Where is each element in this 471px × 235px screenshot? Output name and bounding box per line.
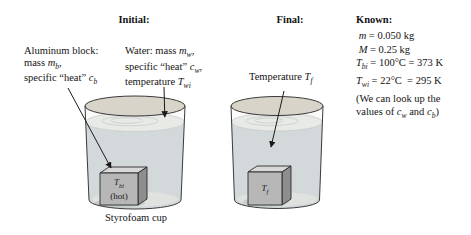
block-temp-initial-note: (hot)	[100, 191, 138, 202]
known-line: m = 0.050 kg	[356, 29, 443, 43]
aluminum-block-label: Aluminum block: mass mb, specific “heat”…	[24, 45, 98, 88]
block-side-face	[138, 167, 147, 205]
calorimetry-figure: Initial: Final: Known: m = 0.050 kg M = …	[0, 0, 471, 235]
water-label-line: Water: mass mw,	[125, 45, 202, 61]
block-temp-final-label: Tf	[248, 183, 282, 197]
known-line: Twi = 22°C = 295 K	[356, 74, 443, 92]
block-temp-initial-symbol: Tbi	[100, 177, 138, 191]
aluminum-block-label-line: specific “heat” cb	[24, 72, 98, 88]
water-label-line: temperature Twi	[125, 76, 202, 92]
water-label-line: specific “heat” cw,	[125, 61, 202, 77]
figure-title-final: Final:	[259, 14, 321, 26]
final-temperature-label: Temperature Tf	[249, 71, 312, 87]
cup-rim	[231, 97, 323, 116]
aluminum-block-label-line: mass mb,	[24, 57, 98, 73]
aluminum-block-label-line: Aluminum block:	[24, 45, 98, 57]
known-values: m = 0.050 kg M = 0.25 kg Tbi = 100°C = 3…	[356, 29, 443, 123]
styrofoam-cup-caption: Styrofoam cup	[94, 212, 178, 224]
block-temp-initial-label: Tbi (hot)	[100, 177, 138, 202]
known-line: M = 0.25 kg	[356, 43, 443, 57]
known-line: Tbi = 100°C = 373 K	[356, 56, 443, 74]
figure-title-initial: Initial:	[99, 14, 169, 26]
water-label: Water: mass mw, specific “heat” cw, temp…	[125, 45, 202, 92]
block-temp-final-symbol: Tf	[248, 183, 282, 197]
cup-rim	[85, 96, 185, 116]
known-line: values of cw and cb)	[356, 105, 443, 123]
block-side-face	[282, 166, 291, 205]
known-line: (We can look up the	[356, 92, 443, 106]
known-heading: Known:	[356, 14, 392, 26]
